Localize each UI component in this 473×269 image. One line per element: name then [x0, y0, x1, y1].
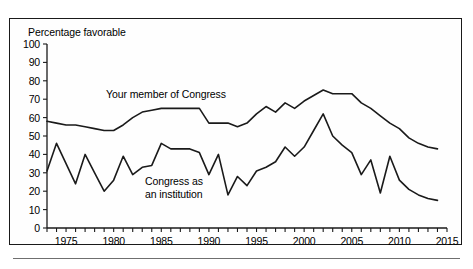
x-tick-label-1990: 1990	[191, 235, 227, 247]
y-tick-label-30: 30	[16, 167, 40, 179]
y-axis-title: Percentage favorable	[28, 26, 126, 38]
figure-container: Percentage favorable 0102030405060708090…	[0, 0, 473, 269]
y-tick-label-50: 50	[16, 130, 40, 142]
x-tick-label-2015: 2015	[429, 235, 465, 247]
y-tick-label-70: 70	[16, 93, 40, 105]
x-tick-label-1980: 1980	[96, 235, 132, 247]
y-tick-label-20: 20	[16, 185, 40, 197]
series-label-line-1: Congress as	[145, 175, 203, 188]
y-tick-label-100: 100	[16, 38, 40, 50]
x-tick-label-1985: 1985	[143, 235, 179, 247]
series-label-line-2: an institution	[145, 188, 203, 201]
chart-border-box	[9, 18, 462, 245]
y-tick-label-90: 90	[16, 56, 40, 68]
y-tick-label-0: 0	[16, 222, 40, 234]
x-tick-label-2010: 2010	[381, 235, 417, 247]
series-label-congress-as-an-institution: Congress as an institution	[145, 175, 203, 200]
y-tick-label-60: 60	[16, 112, 40, 124]
footer-divider	[13, 258, 460, 259]
x-tick-label-2000: 2000	[286, 235, 322, 247]
y-tick-label-80: 80	[16, 75, 40, 87]
series-label-your-member-of-congress: Your member of Congress	[106, 88, 226, 101]
y-tick-label-40: 40	[16, 148, 40, 160]
x-tick-label-1975: 1975	[48, 235, 84, 247]
y-tick-label-10: 10	[16, 204, 40, 216]
x-tick-label-2005: 2005	[334, 235, 370, 247]
x-tick-label-1995: 1995	[239, 235, 275, 247]
